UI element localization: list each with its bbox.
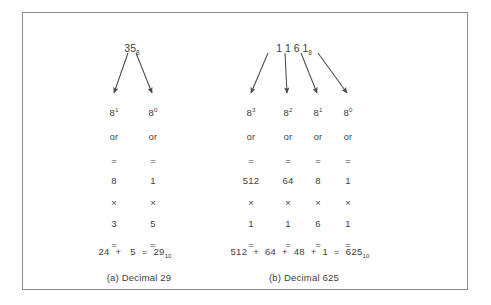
group-b-summary: 512 + 64 + 48 + 1 = 62510: [231, 246, 370, 257]
arrow-a-2: [136, 53, 152, 93]
times-operator: ×: [248, 197, 254, 208]
place-value: 8: [315, 175, 320, 186]
times-operator: ×: [345, 197, 351, 208]
group-a-caption: (a) Decimal 29: [107, 272, 172, 283]
octal-digit: 5: [150, 218, 155, 229]
power-8-0: 80: [344, 107, 353, 118]
octal-digit: 6: [315, 218, 320, 229]
or-label: or: [149, 132, 157, 143]
figure-frame: 358 81 or = 8 × 3 = 80 or = 1 × 5 = 24 +…: [22, 12, 468, 290]
power-8-2: 82: [284, 107, 293, 118]
or-label: or: [284, 132, 292, 143]
equals: =: [142, 246, 148, 257]
equals: =: [334, 246, 340, 257]
or-label: or: [247, 132, 255, 143]
term-2: 5: [130, 246, 136, 257]
arrow-a-1: [114, 53, 128, 93]
arrow-b-4: [318, 53, 347, 93]
plus-3: +: [311, 246, 317, 257]
result-subscript: 10: [165, 252, 172, 259]
place-value: 1: [150, 175, 155, 186]
result-subscript: 10: [363, 252, 370, 259]
place-value: 8: [111, 175, 116, 186]
arrow-b-1: [251, 53, 268, 93]
power-8-0: 80: [149, 107, 158, 118]
term-4: 1: [323, 246, 329, 257]
power-8-1: 81: [110, 107, 119, 118]
arrow-layer: [0, 0, 491, 305]
octal-digit: 1: [285, 218, 290, 229]
equals-top: =: [285, 155, 291, 166]
equals-top: =: [111, 155, 117, 166]
term-1: 24: [98, 246, 109, 257]
place-value: 1: [345, 175, 350, 186]
term-2: 64: [265, 246, 276, 257]
place-value: 64: [283, 175, 294, 186]
octal-digit: 3: [111, 218, 116, 229]
group-a-source-subscript: 8: [136, 49, 140, 56]
or-label: or: [110, 132, 118, 143]
power-8-1: 81: [314, 107, 323, 118]
plus-1: +: [116, 246, 122, 257]
result: 625: [346, 246, 363, 257]
arrow-b-3: [301, 53, 317, 93]
octal-digit: 1: [345, 218, 350, 229]
equals-top: =: [315, 155, 321, 166]
term-3: 48: [294, 246, 305, 257]
or-label: or: [344, 132, 352, 143]
arrow-group-a: [114, 53, 152, 93]
equals-top: =: [345, 155, 351, 166]
octal-digit: 1: [248, 218, 253, 229]
group-a-summary: 24 + 5 = 2910: [98, 246, 171, 257]
result: 29: [153, 246, 164, 257]
place-value: 512: [243, 175, 259, 186]
group-b-caption: (b) Decimal 625: [269, 272, 339, 283]
group-a-source-number: 358: [124, 42, 139, 54]
equals-top: =: [150, 155, 156, 166]
plus-2: +: [282, 246, 288, 257]
times-operator: ×: [150, 197, 156, 208]
equals-top: =: [248, 155, 254, 166]
times-operator: ×: [315, 197, 321, 208]
power-8-3: 83: [247, 107, 256, 118]
group-b-source-number: 1 1 6 18: [276, 42, 312, 54]
plus-1: +: [253, 246, 259, 257]
arrow-group-b: [251, 53, 347, 93]
times-operator: ×: [111, 197, 117, 208]
group-b-source-subscript: 8: [308, 49, 312, 56]
arrow-b-2: [285, 53, 287, 93]
term-1: 512: [231, 246, 248, 257]
times-operator: ×: [285, 197, 291, 208]
or-label: or: [314, 132, 322, 143]
